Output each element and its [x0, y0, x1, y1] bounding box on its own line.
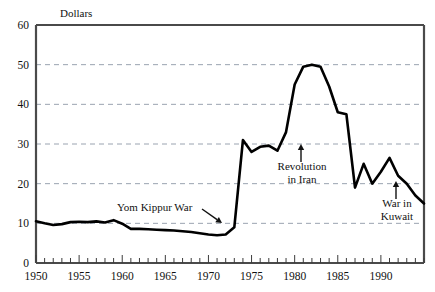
chart-canvas: 0102030405060195019551960196519701975198… — [0, 0, 435, 292]
x-tick-label-1960: 1960 — [111, 270, 134, 282]
y-tick-label-20: 20 — [18, 178, 30, 190]
data-line-crude-oil-price — [36, 65, 424, 236]
x-tick-label-1985: 1985 — [326, 270, 349, 282]
y-tick-label-30: 30 — [18, 138, 30, 150]
y-tick-label-10: 10 — [18, 217, 30, 229]
annotation-yom-kippur-war-arrow-shaft — [202, 209, 217, 220]
x-tick-label-1980: 1980 — [283, 270, 306, 282]
annotation-revolution-in-iran-label-line2: in Iran — [287, 173, 317, 185]
y-axis-title: Dollars — [60, 7, 92, 19]
y-tick-label-0: 0 — [23, 257, 29, 269]
x-tick-label-1970: 1970 — [197, 270, 220, 282]
y-tick-label-50: 50 — [18, 59, 30, 71]
annotation-revolution-in-iran-label-line1: Revolution — [278, 160, 327, 172]
x-tick-label-1975: 1975 — [240, 270, 263, 282]
x-tick-label-1965: 1965 — [154, 270, 177, 282]
annotation-war-in-kuwait-label-line1: War in — [382, 197, 412, 209]
oil-price-chart: 0102030405060195019551960196519701975198… — [0, 0, 435, 292]
annotation-revolution-in-iran-arrow-head — [298, 144, 304, 150]
x-tick-label-1950: 1950 — [25, 270, 48, 282]
x-tick-label-1990: 1990 — [369, 270, 392, 282]
annotation-yom-kippur-war-label: Yom Kippur War — [117, 201, 193, 213]
y-tick-label-40: 40 — [18, 98, 30, 110]
x-tick-label-1955: 1955 — [68, 270, 91, 282]
annotation-war-in-kuwait-label-line2: Kuwait — [381, 210, 413, 222]
annotation-yom-kippur-war-arrow-head — [215, 217, 222, 223]
y-tick-label-60: 60 — [18, 19, 30, 31]
